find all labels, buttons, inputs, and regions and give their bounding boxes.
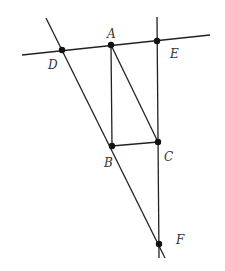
label-F: F: [175, 233, 185, 247]
segment-AB: [111, 45, 112, 146]
segment-AC: [111, 45, 158, 142]
geometry-diagram: ABCDEF: [0, 0, 225, 271]
label-C: C: [164, 150, 173, 164]
point-F: [156, 241, 162, 247]
label-E: E: [169, 47, 179, 61]
label-B: B: [103, 156, 113, 170]
labels-group: ABCDEF: [47, 27, 185, 247]
point-B: [109, 143, 115, 149]
point-E: [154, 38, 160, 44]
line-DBF: [46, 18, 165, 258]
point-C: [155, 139, 161, 145]
label-A: A: [106, 27, 116, 41]
lines-group: [22, 17, 210, 258]
line-DEA: [22, 35, 210, 55]
point-D: [59, 47, 65, 53]
segment-BC: [112, 142, 158, 146]
label-D: D: [47, 58, 58, 72]
line-ECF: [157, 17, 159, 258]
point-A: [108, 42, 114, 48]
